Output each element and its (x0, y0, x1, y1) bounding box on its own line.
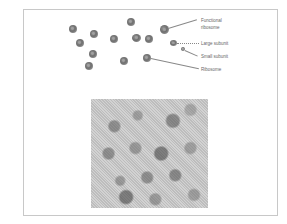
ribosome-blob (132, 34, 141, 42)
large-subunit-blob (170, 40, 177, 46)
ribosome-blob (90, 30, 98, 38)
ribosome-blob (110, 35, 118, 43)
ribosome-blob (85, 62, 93, 70)
ribosome-blob (89, 50, 97, 58)
electron-micrograph (91, 99, 208, 208)
ribosome-blob (145, 35, 153, 43)
label-ribosome: Ribosome (201, 67, 221, 72)
label-small-subunit: Small subunit (201, 54, 228, 59)
label-functional-ribosome-line1: Functional (201, 18, 222, 23)
ribosome-blob (120, 57, 128, 65)
label-functional-ribosome-line2: ribosome (201, 25, 220, 30)
ribosome-blob (69, 25, 77, 33)
functional-ribosome-blob (160, 25, 169, 34)
ribosome-blob (127, 18, 135, 26)
label-large-subunit: Large subunit (201, 41, 228, 46)
ribosome-blob (76, 39, 84, 47)
leader-line-large (177, 43, 199, 44)
